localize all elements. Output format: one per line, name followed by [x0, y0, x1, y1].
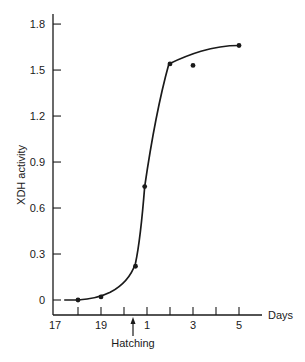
y-tick-label: 1.5: [30, 64, 45, 76]
x-tick-label: 17: [49, 319, 61, 331]
y-tick-label: 0.6: [30, 202, 45, 214]
data-point: [168, 62, 173, 67]
x-tick-label: 1: [144, 319, 150, 331]
hatching-label: Hatching: [111, 337, 154, 349]
xdh-activity-chart: 00.30.60.91.21.51.8 1719135 XDH activity…: [0, 0, 305, 362]
x-tick-label: 5: [236, 319, 242, 331]
x-tick-label: 3: [190, 319, 196, 331]
data-point: [133, 264, 138, 269]
data-point: [99, 295, 104, 300]
data-point: [76, 298, 81, 303]
x-tick-label: 19: [95, 319, 107, 331]
x-axis-ticks: 1719135: [49, 307, 242, 331]
y-axis-ticks: 00.30.60.91.21.51.8: [30, 18, 61, 306]
x-axis-label: Days: [268, 309, 294, 321]
y-tick-label: 1.2: [30, 110, 45, 122]
fitted-curve: [64, 46, 239, 300]
data-point: [237, 43, 242, 48]
y-tick-label: 0.3: [30, 248, 45, 260]
hatching-arrowhead-icon: [131, 317, 136, 324]
y-axis-label: XDH activity: [15, 145, 27, 205]
data-point: [142, 184, 147, 189]
y-tick-label: 1.8: [30, 18, 45, 30]
data-points: [76, 43, 242, 302]
data-point: [191, 63, 196, 68]
y-tick-label: 0.9: [30, 156, 45, 168]
y-tick-label: 0: [39, 294, 45, 306]
